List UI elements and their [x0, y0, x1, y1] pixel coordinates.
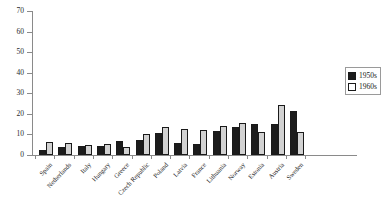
- x-tick-mark: [132, 155, 133, 159]
- bar-1960s: [85, 145, 92, 155]
- bar-1960s: [143, 134, 150, 155]
- legend: 1950s 1960s: [345, 67, 381, 95]
- y-tick-label: 30: [17, 87, 25, 98]
- x-tick-mark: [286, 155, 287, 159]
- bar-1960s: [162, 127, 169, 155]
- bar-1950s: [97, 146, 104, 155]
- bar-1960s: [181, 129, 188, 155]
- x-tick-mark: [93, 155, 94, 159]
- bar-1960s: [65, 143, 72, 155]
- bar-group: [213, 11, 227, 155]
- bar-group: [58, 11, 72, 155]
- x-category-label: Poland: [151, 161, 169, 180]
- bar-1950s: [213, 131, 220, 155]
- bar-1950s: [39, 150, 46, 155]
- bar-group: [78, 11, 92, 155]
- bar-1950s: [193, 144, 200, 155]
- x-tick-mark: [112, 155, 113, 159]
- bar-1950s: [290, 111, 297, 155]
- x-category-label: Latvia: [172, 161, 189, 179]
- y-tick-label: 50: [17, 46, 25, 57]
- bar-1960s: [200, 130, 207, 155]
- bar-1960s: [220, 126, 227, 155]
- legend-item-1960s: 1960s: [348, 81, 377, 92]
- bar-group: [155, 11, 169, 155]
- x-tick-mark: [209, 155, 210, 159]
- bar-1960s: [258, 132, 265, 155]
- x-tick-mark: [54, 155, 55, 159]
- x-axis-line: [32, 155, 357, 156]
- legend-label-1950s: 1950s: [359, 71, 377, 80]
- bar-1950s: [58, 147, 65, 155]
- bar-1960s: [297, 132, 304, 155]
- legend-swatch-icon-1950s: [348, 72, 356, 80]
- bar-1950s: [232, 127, 239, 155]
- bar-1950s: [78, 146, 85, 155]
- bar-1960s: [123, 147, 130, 155]
- bar-1950s: [271, 124, 278, 155]
- y-tick-label: 40: [17, 67, 25, 78]
- x-tick-mark: [189, 155, 190, 159]
- x-tick-mark: [151, 155, 152, 159]
- y-tick-label: 10: [17, 128, 25, 139]
- bar-1960s: [104, 144, 111, 155]
- bar-1950s: [136, 140, 143, 155]
- x-tick-mark: [305, 155, 306, 159]
- y-tick-label: 20: [17, 108, 25, 119]
- bar-group: [174, 11, 188, 155]
- x-category-label: Hungary: [90, 161, 112, 183]
- legend-label-1960s: 1960s: [359, 82, 377, 91]
- bar-group: [251, 11, 265, 155]
- bar-1950s: [116, 141, 123, 155]
- bar-chart: 706050403020100 SpainNetherlandsItalyHun…: [0, 0, 391, 217]
- bar-group: [290, 11, 304, 155]
- x-category-label: Spain: [38, 161, 54, 177]
- bar-group: [271, 11, 285, 155]
- x-category-label: Estonia: [247, 161, 266, 181]
- bar-group: [193, 11, 207, 155]
- y-tick: 0: [27, 155, 33, 156]
- x-category-label: Austria: [266, 161, 285, 181]
- x-tick-mark: [267, 155, 268, 159]
- x-category-label: Sweden: [285, 161, 305, 182]
- bar-1950s: [155, 133, 162, 155]
- legend-swatch-icon-1960s: [348, 83, 356, 91]
- bar-1960s: [239, 123, 246, 155]
- x-category-label: Italy: [78, 161, 92, 175]
- bar-group: [232, 11, 246, 155]
- bar-1950s: [251, 124, 258, 155]
- bar-group: [39, 11, 53, 155]
- y-tick-label: 60: [17, 26, 25, 37]
- x-tick-mark: [74, 155, 75, 159]
- y-tick-mark: [27, 155, 33, 156]
- y-tick-label: 0: [20, 149, 24, 160]
- x-category-label: Norway: [227, 161, 247, 182]
- x-tick-mark: [247, 155, 248, 159]
- bar-group: [136, 11, 150, 155]
- x-tick-mark: [35, 155, 36, 159]
- bar-group: [116, 11, 130, 155]
- bar-1960s: [46, 142, 53, 155]
- x-category-label: Lithuania: [204, 161, 227, 185]
- legend-item-1950s: 1950s: [348, 70, 377, 81]
- x-tick-mark: [228, 155, 229, 159]
- bar-group: [97, 11, 111, 155]
- bar-1960s: [278, 105, 285, 155]
- x-tick-mark: [170, 155, 171, 159]
- plot-area: [33, 11, 323, 155]
- y-tick-label: 70: [17, 5, 25, 16]
- bar-1950s: [174, 143, 181, 155]
